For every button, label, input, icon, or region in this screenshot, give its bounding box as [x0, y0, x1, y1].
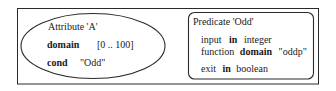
attribute-domain-keyword: domain — [47, 39, 80, 50]
predicate-input-keyword: in — [229, 34, 238, 45]
predicate-input-type: integer — [244, 34, 272, 45]
predicate-title: Predicate 'Odd' — [193, 16, 254, 27]
predicate-input-label: input — [201, 34, 222, 45]
attribute-node: Attribute 'A' domain [0 .. 100] cond "Od… — [21, 14, 165, 79]
predicate-function-value: "oddp" — [279, 46, 307, 57]
predicate-exit-label: exit — [201, 63, 216, 74]
attribute-cond-keyword: cond — [47, 57, 68, 68]
attribute-predicate-diagram: Attribute 'A' domain [0 .. 100] cond "Od… — [0, 0, 336, 91]
predicate-function-label: function — [201, 46, 234, 57]
predicate-input-line: input in integer — [201, 34, 272, 45]
predicate-exit-line: exit in boolean — [201, 63, 268, 74]
attribute-domain-value: [0 .. 100] — [97, 39, 134, 50]
attribute-title: Attribute 'A' — [48, 21, 98, 32]
predicate-function-keyword: domain — [240, 46, 273, 57]
predicate-exit-type: boolean — [236, 63, 268, 74]
predicate-exit-keyword: in — [223, 63, 232, 74]
predicate-function-line: function domain "oddp" — [201, 46, 307, 57]
attribute-cond-value: "Odd" — [80, 57, 105, 68]
predicate-node: Predicate 'Odd' input in integer functio… — [189, 13, 314, 80]
